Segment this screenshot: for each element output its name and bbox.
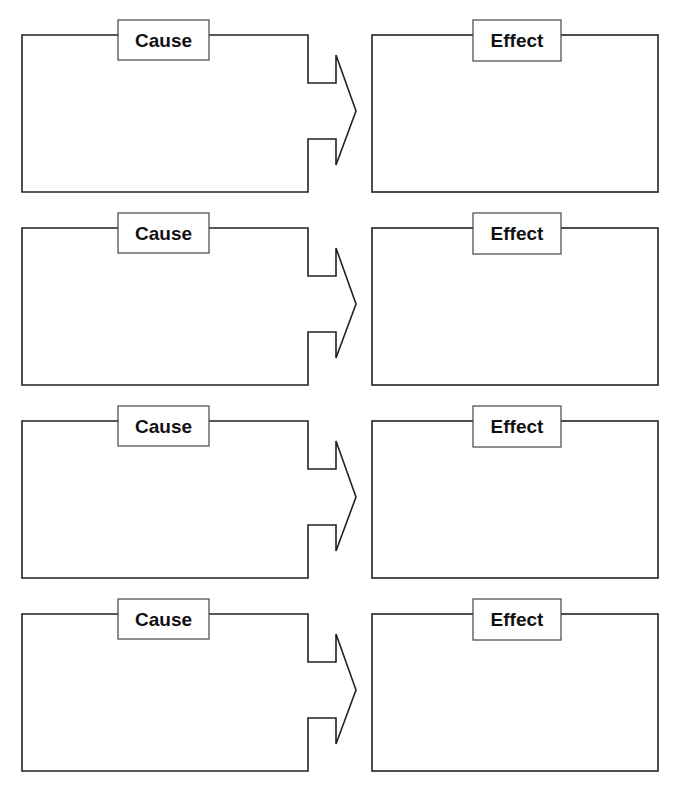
cause-effect-pair: CauseEffect (22, 406, 658, 578)
effect-label: Effect (473, 406, 561, 447)
effect-label: Effect (473, 213, 561, 254)
effect-label-text: Effect (491, 609, 544, 630)
cause-label-text: Cause (135, 223, 192, 244)
cause-label: Cause (118, 20, 209, 60)
cause-effect-pair: CauseEffect (22, 20, 658, 192)
cause-label-text: Cause (135, 416, 192, 437)
cause-effect-pair: CauseEffect (22, 213, 658, 385)
effect-box[interactable]: Effect (372, 213, 658, 385)
cause-label: Cause (118, 599, 209, 639)
effect-label: Effect (473, 599, 561, 640)
cause-label-text: Cause (135, 30, 192, 51)
effect-label-text: Effect (491, 223, 544, 244)
cause-label: Cause (118, 406, 209, 446)
effect-box[interactable]: Effect (372, 406, 658, 578)
cause-box[interactable]: Cause (22, 213, 356, 385)
cause-label-text: Cause (135, 609, 192, 630)
cause-effect-organizer: CauseEffectCauseEffectCauseEffectCauseEf… (0, 0, 679, 790)
effect-box[interactable]: Effect (372, 20, 658, 192)
effect-box[interactable]: Effect (372, 599, 658, 771)
effect-label-text: Effect (491, 416, 544, 437)
cause-effect-pair: CauseEffect (22, 599, 658, 771)
cause-box[interactable]: Cause (22, 599, 356, 771)
effect-label-text: Effect (491, 30, 544, 51)
cause-label: Cause (118, 213, 209, 253)
cause-box[interactable]: Cause (22, 406, 356, 578)
cause-box[interactable]: Cause (22, 20, 356, 192)
effect-label: Effect (473, 20, 561, 61)
